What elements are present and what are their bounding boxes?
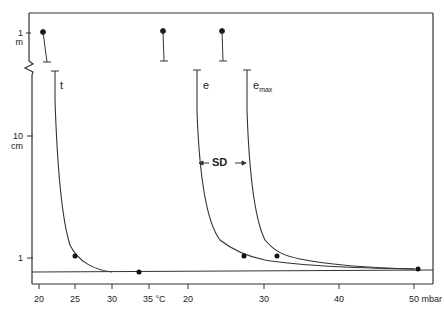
- x-ticks: [39, 284, 414, 289]
- curve-t: [55, 71, 112, 272]
- y-label-1: 1: [1, 254, 23, 263]
- x-label-t30: 30: [107, 295, 117, 304]
- x-label-p20: 20: [183, 295, 193, 304]
- curve-label-e: e: [203, 80, 209, 91]
- y-label-10cm-value: 10: [1, 132, 23, 141]
- y-label-10cm-unit: cm: [1, 142, 23, 151]
- point-e: [242, 254, 247, 259]
- x-label-p30: 30: [259, 295, 269, 304]
- point-t-25: [73, 254, 78, 259]
- x-label-p40: 40: [334, 295, 344, 304]
- baseline: [32, 270, 433, 272]
- x-label-p50: 50 mbar: [409, 295, 442, 304]
- curve-emax: [247, 70, 415, 269]
- x-label-t35: 35 °C: [143, 295, 166, 304]
- curve-label-emax-sub: max: [259, 86, 272, 93]
- curve-caps: [51, 70, 251, 71]
- point-baseline-34: [137, 270, 142, 275]
- point-baseline-50: [416, 267, 421, 272]
- top-markers: [41, 29, 228, 63]
- x-label-t25: 25: [70, 295, 80, 304]
- y-axis-with-break: [25, 13, 33, 284]
- x-label-t20: 20: [34, 295, 44, 304]
- y-label-1m-unit: m: [1, 38, 23, 47]
- curve-label-emax: emax: [253, 80, 272, 93]
- curve-e: [197, 70, 415, 269]
- curve-label-t: t: [60, 80, 63, 91]
- sd-label: SD: [212, 157, 227, 168]
- point-emax: [275, 254, 280, 259]
